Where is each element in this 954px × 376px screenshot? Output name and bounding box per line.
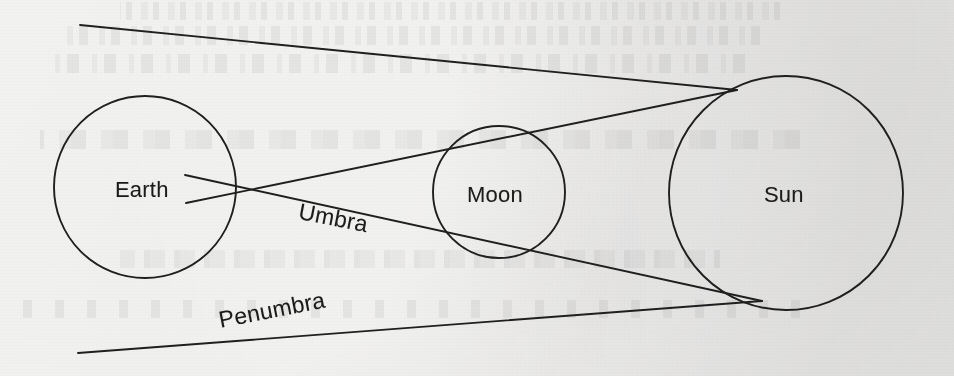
body-label-moon: Moon (467, 182, 523, 208)
ray-line-penumbra-lower (78, 301, 762, 353)
ray-line-umbra-lower (186, 90, 737, 203)
diagram-page: EarthMoonSunUmbraPenumbra (0, 0, 954, 376)
ray-lines-group (78, 25, 762, 353)
body-label-sun: Sun (764, 182, 804, 208)
ray-line-penumbra-upper (80, 25, 737, 90)
body-label-earth: Earth (115, 177, 169, 203)
